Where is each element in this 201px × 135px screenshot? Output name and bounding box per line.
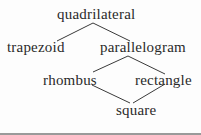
bottom-border [0, 133, 201, 135]
node-parallelogram: parallelogram [100, 40, 186, 55]
edge-parallelogram-rhombus [93, 56, 128, 72]
edge-rhombus-square [92, 85, 130, 103]
node-quadrilateral: quadrilateral [57, 7, 135, 22]
node-square: square [116, 103, 156, 118]
node-rectangle: rectangle [135, 73, 192, 88]
quadrilateral-hierarchy-diagram: quadrilateral trapezoid parallelogram rh… [0, 0, 201, 135]
node-trapezoid: trapezoid [7, 40, 65, 55]
node-rhombus: rhombus [43, 73, 97, 88]
